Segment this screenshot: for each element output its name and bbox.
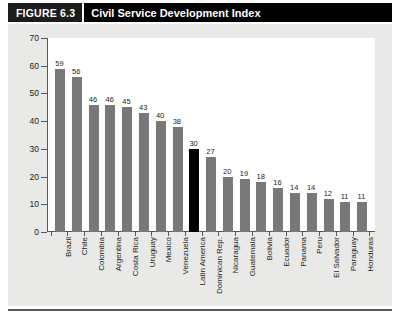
y-axis-tick — [41, 177, 47, 178]
bar — [307, 193, 317, 232]
bar-value-label: 38 — [173, 117, 181, 126]
bar-slot: 16 — [270, 38, 287, 232]
x-axis-label: Panama — [299, 237, 308, 267]
y-axis-label: 70 — [11, 33, 39, 43]
x-axis-tick — [302, 232, 303, 236]
bar-slot: 56 — [68, 38, 85, 232]
chart-panel: 59564646454340383027201918161414121111 B… — [8, 24, 392, 306]
x-axis-label: Colombia — [97, 237, 106, 271]
bar-slot: 38 — [169, 38, 186, 232]
bar-slot: 20 — [219, 38, 236, 232]
bar — [206, 157, 216, 232]
bar-value-label: 11 — [341, 192, 349, 201]
bar-slot: 27 — [203, 38, 220, 232]
bar-slot: 12 — [320, 38, 337, 232]
bar — [156, 121, 166, 232]
bar — [240, 179, 250, 232]
bar-slot: 59 — [52, 38, 69, 232]
y-axis-label: 20 — [11, 172, 39, 182]
x-axis-label: Costa Rica — [131, 237, 140, 276]
bar-slot: 11 — [354, 38, 371, 232]
bar-slot: 19 — [236, 38, 253, 232]
x-axis-tick — [135, 232, 136, 236]
x-axis-tick — [286, 232, 287, 236]
bar-slot: 45 — [119, 38, 136, 232]
x-axis-tick — [252, 232, 253, 236]
x-axis-label: Mexico — [164, 237, 173, 262]
bar-value-label: 59 — [55, 59, 63, 68]
x-axis-tick — [67, 232, 68, 236]
x-axis-tick — [202, 232, 203, 236]
bar-value-label: 11 — [358, 192, 366, 201]
bar-value-label: 40 — [156, 111, 164, 120]
bar-slot: 43 — [136, 38, 153, 232]
x-axis-label: Peru — [315, 237, 324, 254]
x-axis-tick — [218, 232, 219, 236]
bar-slot: 46 — [102, 38, 119, 232]
figure-number-badge: FIGURE 6.3 — [8, 3, 82, 22]
x-axis-label: Dominican Rep. — [215, 237, 224, 294]
x-axis-tick — [168, 232, 169, 236]
bar — [223, 177, 233, 232]
bar-value-label: 46 — [89, 95, 97, 104]
bar — [139, 113, 149, 232]
y-axis-label: 40 — [11, 116, 39, 126]
y-axis-tick — [41, 232, 47, 233]
bar-value-label: 14 — [290, 183, 298, 192]
bar-value-label: 16 — [273, 178, 281, 187]
x-axis-label: Guatemala — [248, 237, 257, 276]
x-axis-label: Bolivia — [265, 237, 274, 261]
y-axis-label: 50 — [11, 88, 39, 98]
bar — [256, 182, 266, 232]
x-axis-tick — [336, 232, 337, 236]
bar — [122, 107, 132, 232]
bar — [55, 69, 65, 233]
bar — [323, 199, 333, 232]
x-axis-tick — [118, 232, 119, 236]
bar-series: 59564646454340383027201918161414121111 — [47, 38, 375, 232]
x-axis-tick — [353, 232, 354, 236]
x-axis-labels: BrazilChileColombiaArgentinaCosta RicaUr… — [47, 237, 375, 305]
bar-value-label: 43 — [139, 103, 147, 112]
y-axis-tick — [41, 149, 47, 150]
bar — [89, 105, 99, 232]
figure-container: FIGURE 6.3 Civil Service Development Ind… — [0, 0, 400, 320]
x-axis-label: Ecuador — [282, 237, 291, 267]
figure-header: FIGURE 6.3 Civil Service Development Ind… — [8, 3, 392, 22]
y-axis-label: 60 — [11, 61, 39, 71]
bar-value-label: 20 — [223, 167, 231, 176]
bar-value-label: 45 — [122, 97, 130, 106]
bar-slot: 40 — [152, 38, 169, 232]
x-axis-tick — [319, 232, 320, 236]
bar — [273, 188, 283, 232]
x-axis-ticks — [47, 232, 375, 236]
y-axis-label: 30 — [11, 144, 39, 154]
bar-value-label: 19 — [240, 169, 248, 178]
x-axis-label: Venezuela — [181, 237, 190, 274]
x-axis-label: Honduras — [366, 237, 375, 272]
bar-slot: 11 — [337, 38, 354, 232]
bar — [340, 202, 350, 232]
x-axis-tick — [269, 232, 270, 236]
bar — [72, 77, 82, 232]
x-axis-tick — [235, 232, 236, 236]
x-axis-label: Argentina — [114, 237, 123, 271]
x-axis-tick — [151, 232, 152, 236]
x-axis-tick — [51, 232, 52, 236]
y-axis-tick — [41, 38, 47, 39]
x-axis-label: Chile — [80, 237, 89, 255]
bottom-rule — [8, 309, 392, 311]
x-axis-label: Brazil — [64, 237, 73, 257]
bar-value-label: 56 — [72, 67, 80, 76]
y-axis-tick — [41, 121, 47, 122]
bar-value-label: 18 — [257, 172, 265, 181]
x-axis-tick — [84, 232, 85, 236]
x-axis-tick — [369, 232, 370, 236]
y-axis-tick — [41, 66, 47, 67]
bar-value-label: 14 — [307, 183, 315, 192]
bar-value-label: 46 — [106, 95, 114, 104]
bar — [189, 149, 199, 232]
y-axis-tick — [41, 93, 47, 94]
y-axis-label: 10 — [11, 199, 39, 209]
x-axis-label: Latin America — [198, 237, 207, 285]
